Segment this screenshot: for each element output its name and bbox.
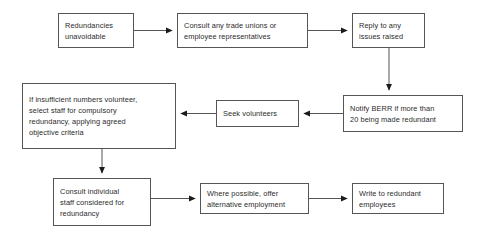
node-consult-trade-unions: Consult any trade unions or employee rep… [177,13,308,48]
node-label: Consult individual staff considered for … [60,186,144,219]
flowchart-diagram: Redundancies unavoidable Consult any tra… [0,0,479,241]
node-label: Seek volunteers [223,108,292,119]
node-label: Redundancies unavoidable [65,20,127,42]
node-label: Reply to any issues raised [359,20,418,42]
node-reply-to-issues: Reply to any issues raised [352,13,425,48]
node-write-to-redundant-employees: Write to redundant employees [352,183,444,214]
node-redundancies-unavoidable: Redundancies unavoidable [58,13,134,48]
node-consult-individual-staff: Consult individual staff considered for … [53,178,151,226]
node-label: Write to redundant employees [359,188,437,210]
node-notify-berr: Notify BERR if more than 20 being made r… [343,95,463,132]
node-alternative-employment: Where possible, offer alternative employ… [200,183,309,214]
node-label: If insufficient numbers volunteer, selec… [29,94,169,138]
node-label: Notify BERR if more than 20 being made r… [350,103,456,125]
node-label: Consult any trade unions or employee rep… [184,20,301,42]
node-insufficient-numbers-volunteer: If insufficient numbers volunteer, selec… [22,83,176,149]
node-label: Where possible, offer alternative employ… [207,188,302,210]
node-seek-volunteers: Seek volunteers [216,100,299,127]
